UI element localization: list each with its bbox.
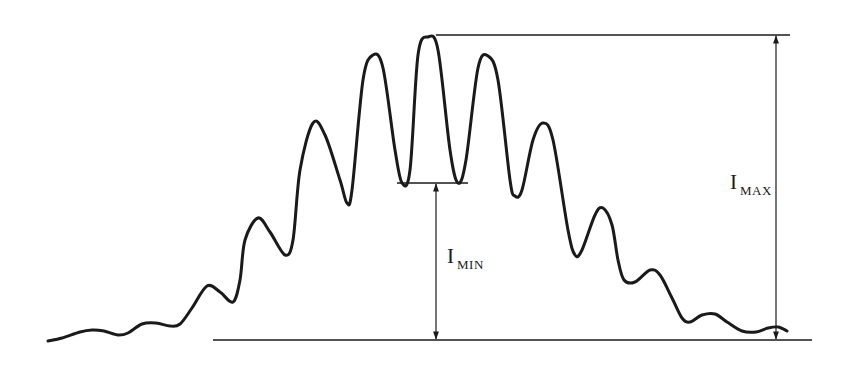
intensity-curve — [48, 36, 787, 341]
i-max-subscript: MAX — [740, 183, 772, 198]
i-min-label: IMIN — [447, 246, 484, 267]
i-max-symbol: I — [730, 170, 737, 194]
i-min-subscript: MIN — [457, 257, 484, 272]
i-max-label: IMAX — [730, 172, 772, 193]
i-min-symbol: I — [447, 244, 454, 268]
fringe-intensity-diagram — [0, 0, 844, 365]
